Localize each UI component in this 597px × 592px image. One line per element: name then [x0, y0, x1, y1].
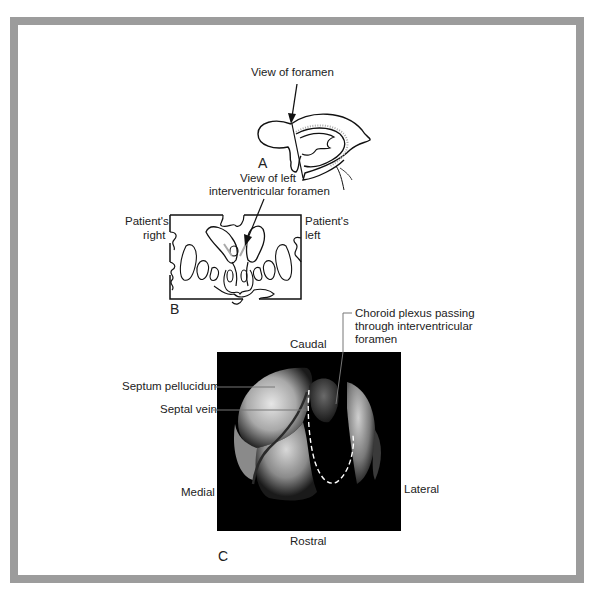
panel-c-letter: C	[218, 549, 228, 563]
panel-c-callout-lines	[0, 0, 597, 592]
